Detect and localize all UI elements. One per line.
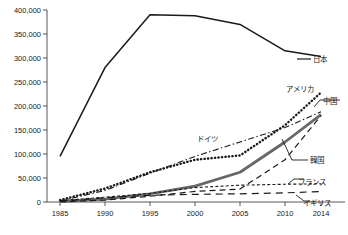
series-label-japan: 日本 (313, 54, 328, 64)
x-tick-label: 1990 (97, 209, 114, 218)
series-label-france: フランス (298, 178, 326, 187)
chart-background (0, 0, 348, 235)
y-tick-label: 300,000 (14, 54, 41, 63)
y-axis-tick-labels: 400,000 350,000 300,000 250,000 200,000 … (14, 6, 41, 207)
y-tick-label: 400,000 (14, 6, 41, 15)
y-tick-label: 350,000 (14, 30, 41, 39)
x-tick-label: 2014 (313, 209, 330, 218)
series-label-germany: ドイツ (197, 135, 218, 144)
series-label-america: アメリカ (286, 85, 314, 94)
line-chart: 400,000 350,000 300,000 250,000 200,000 … (0, 0, 348, 235)
chart-canvas: 400,000 350,000 300,000 250,000 200,000 … (0, 0, 348, 235)
x-tick-label: 2005 (232, 209, 249, 218)
x-tick-label: 2000 (187, 209, 204, 218)
y-tick-label: 200,000 (14, 102, 41, 111)
series-label-uk: イギリス (303, 199, 331, 208)
x-tick-label: 2010 (277, 209, 294, 218)
y-tick-label: 250,000 (14, 78, 41, 87)
x-tick-label: 1995 (142, 209, 159, 218)
x-tick-label: 1985 (52, 209, 69, 218)
series-label-china: 中国 (323, 96, 337, 106)
y-tick-label: 0 (37, 198, 41, 207)
y-tick-label: 50,000 (18, 174, 41, 183)
series-label-korea: 韓国 (310, 155, 324, 165)
y-tick-label: 150,000 (14, 126, 41, 135)
y-tick-label: 100,000 (14, 150, 41, 159)
